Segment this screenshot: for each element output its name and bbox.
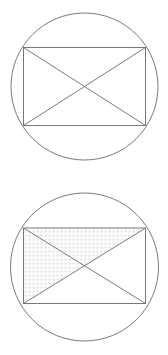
figure-1-panel [0, 0, 168, 178]
figure-1-drawing [0, 0, 168, 178]
figure-stack [0, 0, 168, 355]
figure-2-panel [0, 178, 168, 355]
figure-2-drawing [0, 178, 168, 355]
